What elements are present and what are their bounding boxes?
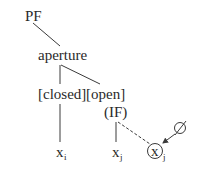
feature-tree-diagram: PF aperture [closed] [open] (IF) x i x j… [0, 0, 200, 169]
arrow-empty-to-circled-xj [163, 134, 175, 143]
node-xi-subscript: i [64, 152, 67, 162]
node-xi: x [56, 144, 64, 160]
node-circled-xj-subscript: j [162, 152, 166, 162]
node-open: [open] [86, 86, 125, 102]
node-aperture: aperture [38, 47, 87, 63]
edge-if-circled-xj-dashed [118, 122, 150, 144]
node-xj: x [112, 144, 120, 160]
node-xj-subscript: j [119, 152, 123, 162]
node-if: (IF) [104, 104, 127, 121]
edge-aperture-open [61, 65, 100, 84]
node-closed: [closed] [38, 86, 86, 102]
edge-pf-aperture [33, 23, 60, 46]
node-pf: PF [25, 8, 42, 24]
empty-set-icon [175, 121, 187, 135]
node-circled-xj: x [151, 143, 159, 159]
